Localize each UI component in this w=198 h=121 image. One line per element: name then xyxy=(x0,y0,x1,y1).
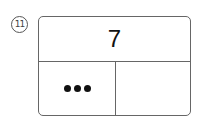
part-right-answer-cell[interactable] xyxy=(116,61,190,115)
number-bond-box: 7 xyxy=(38,16,191,116)
whole-value: 7 xyxy=(39,17,190,62)
dot-icon xyxy=(84,85,91,92)
part-left-cell xyxy=(39,61,116,115)
dot-icon xyxy=(74,85,81,92)
problem-number: 11 xyxy=(11,16,28,33)
dot-icon xyxy=(64,85,71,92)
